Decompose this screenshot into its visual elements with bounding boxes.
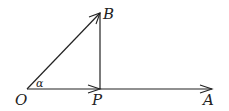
label-p: P <box>91 91 103 109</box>
label-a: A <box>201 91 214 109</box>
vector-diagram: B O P A α <box>0 0 229 111</box>
label-o: O <box>15 91 27 109</box>
label-b: B <box>102 5 114 23</box>
angle-alpha-label: α <box>36 77 44 90</box>
